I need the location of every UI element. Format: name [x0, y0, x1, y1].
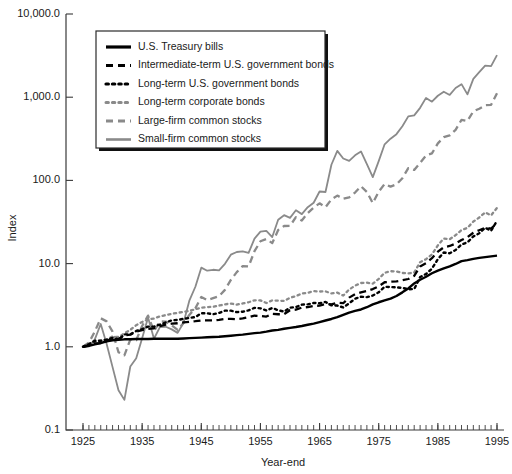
y-axis-title: Index [6, 214, 18, 241]
x-tick-label: 1995 [485, 435, 509, 447]
x-axis-minor-ticks [83, 425, 497, 430]
y-tick-label: 0.1 [45, 423, 60, 435]
legend-label-3: Long-term U.S. government bonds [138, 77, 299, 89]
y-tick-label: 1.0 [45, 340, 60, 352]
x-axis-tick-labels: 19251935194519551965197519851995 [71, 435, 509, 447]
series-line-u-s-treasury-bills [83, 256, 497, 347]
x-tick-label: 1975 [366, 435, 390, 447]
x-tick-label: 1945 [189, 435, 213, 447]
x-tick-label: 1935 [130, 435, 154, 447]
legend: U.S. Treasury billsIntermediate-term U.S… [96, 31, 334, 151]
legend-label-4: Long-term corporate bonds [138, 95, 265, 107]
x-tick-label: 1985 [426, 435, 450, 447]
y-tick-label: 10.0 [39, 257, 60, 269]
legend-label-5: Large-firm common stocks [138, 114, 262, 126]
legend-label-2: Intermediate-term U.S. government bonds [138, 58, 334, 70]
chart-container: 10,000.01,000.0100.010.01.00.1 192519351… [0, 0, 512, 474]
x-tick-label: 1955 [248, 435, 272, 447]
y-tick-label: 100.0 [32, 173, 60, 185]
x-tick-label: 1925 [71, 435, 95, 447]
y-tick-label: 1,000.0 [23, 90, 60, 102]
x-tick-label: 1965 [307, 435, 331, 447]
index-growth-log-chart: 10,000.01,000.0100.010.01.00.1 192519351… [0, 0, 512, 474]
legend-label-1: U.S. Treasury bills [138, 40, 223, 52]
legend-label-6: Small-firm common stocks [138, 132, 261, 144]
x-axis-title: Year-end [261, 456, 305, 468]
y-axis-major-ticks [66, 14, 73, 430]
y-axis-tick-labels: 10,000.01,000.0100.010.01.00.1 [17, 7, 60, 435]
y-tick-label: 10,000.0 [17, 7, 60, 19]
